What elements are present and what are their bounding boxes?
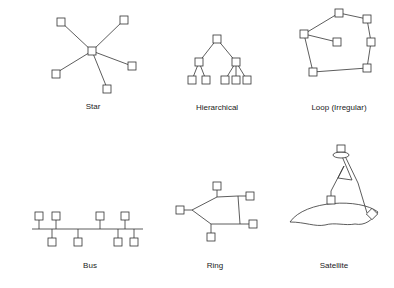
topology-diagrams: Star Hierarchical Loop (Irregular) Bus R…: [0, 0, 394, 288]
hierarchical-diagram: [188, 35, 251, 84]
label-hierarchical: Hierarchical: [162, 103, 272, 112]
satellite-diagram: [290, 145, 378, 225]
label-satellite: Satellite: [279, 261, 389, 270]
label-ring: Ring: [160, 261, 270, 270]
bus-diagram: [32, 212, 143, 246]
label-star: Star: [38, 102, 148, 111]
label-bus: Bus: [35, 261, 145, 270]
ring-diagram: [176, 182, 257, 241]
loop-diagram: [300, 9, 375, 76]
star-diagram: [52, 16, 136, 93]
label-loop: Loop (Irregular): [284, 103, 394, 112]
